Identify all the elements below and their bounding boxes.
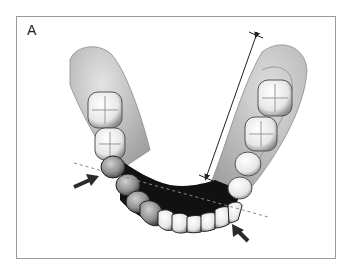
left-arrow-icon (74, 174, 99, 187)
right-arrow-icon (232, 224, 248, 241)
dental-arch-illustration (0, 0, 350, 273)
